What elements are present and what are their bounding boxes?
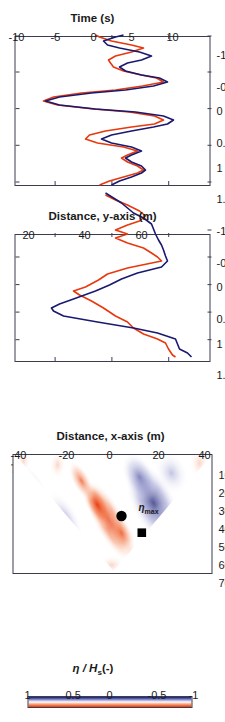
map-ytick-label: 10 [218, 470, 225, 481]
colorbar-label: η / Hs(-) [72, 662, 113, 677]
temporal-ytick-label: 1.5 [216, 194, 225, 205]
colorbar-tick-label: -0.5 [147, 690, 166, 701]
spatial-ytick-label: 0 [216, 282, 222, 293]
spatial-xaxis-label: Distance, y-axis (m) [48, 210, 156, 222]
colorbar-tick-label: 1 [24, 690, 30, 701]
map-ytick-label: 50 [218, 542, 225, 553]
reference-square-marker [137, 528, 146, 537]
temporal-panel: 1.5 1 0.5 0 -0.5 -1 -10 -5 0 5 10 Time (… [0, 0, 225, 210]
map-ytick-label: 20 [218, 488, 225, 499]
colorbar-tick-label: 0.5 [65, 690, 80, 701]
temporal-axes [14, 36, 210, 186]
map-field [13, 455, 211, 573]
spatial-ytick-label: 0.5 [216, 314, 225, 325]
map-ytick-label: 30 [218, 506, 225, 517]
rotated-figure-stage: 1 0.5 0 -0.5 -1 η / Hs(-) Time @ η = ηma… [0, 0, 225, 722]
spatial-ytick-label: -0.5 [216, 258, 225, 269]
colorbar-label-unit: (-) [101, 662, 113, 674]
map-xtick-label: 20 [152, 450, 164, 461]
map-axes [12, 454, 212, 574]
map-panel: Time @ η = ηmax ∈ RΓ [0, 418, 225, 630]
spatial-ytick-label: -1 [216, 226, 225, 237]
spatial-panel: 1.5 1 0.5 0 -0.5 -1 η / Hs(-) 20 40 60 D… [0, 210, 225, 418]
map-xaxis-label: Distance, x-axis (m) [56, 430, 164, 442]
colorbar-label-eta: η / H [72, 662, 97, 674]
temporal-xtick-label: 10 [166, 32, 178, 43]
spatial-ytick-label: 1.5 [216, 370, 225, 381]
figure-canvas: 1 0.5 0 -0.5 -1 η / Hs(-) Time @ η = ηma… [0, 0, 225, 722]
colorbar-tick-label: 0 [106, 690, 112, 701]
temporal-xtick-label: -5 [50, 32, 60, 43]
spatial-xtick-label: 60 [135, 230, 147, 241]
temporal-ytick-label: 0.5 [216, 138, 225, 149]
spatial-axes [14, 234, 210, 362]
spatial-xtick-label: 40 [78, 230, 90, 241]
temporal-xaxis-label: Time (s) [70, 12, 114, 24]
colorbar-panel: 1 0.5 0 -0.5 -1 η / Hs(-) [0, 630, 225, 722]
temporal-xtick-label: -10 [8, 32, 24, 43]
spatial-ytick-label: 1 [216, 339, 222, 350]
map-xtick-label: -20 [58, 450, 74, 461]
colorbar-tick-label: -1 [188, 690, 198, 701]
temporal-ytick-label: 0 [216, 106, 222, 117]
temporal-ytick-label: -0.5 [216, 82, 225, 93]
eta-max-annotation-text: η [138, 502, 144, 513]
temporal-lines-svg [15, 35, 211, 185]
map-xtick-label: 0 [106, 450, 112, 461]
temporal-ytick-label: 1 [216, 163, 222, 174]
temporal-xtick-label: 5 [128, 32, 134, 43]
temporal-xtick-label: 0 [90, 32, 96, 43]
map-xtick-label: -40 [10, 450, 26, 461]
map-field-svg [13, 455, 211, 573]
spatial-xtick-label: 20 [22, 230, 34, 241]
eta-max-annotation: ηmax [138, 502, 158, 517]
temporal-ytick-label: -1 [216, 50, 225, 61]
spatial-lines-svg [15, 233, 211, 361]
map-ytick-label: 40 [218, 524, 225, 535]
map-xtick-label: 40 [198, 450, 210, 461]
map-ytick-label: 70 [218, 578, 225, 589]
map-ytick-label: 60 [218, 560, 225, 571]
eta-max-annotation-sub: max [144, 508, 158, 515]
